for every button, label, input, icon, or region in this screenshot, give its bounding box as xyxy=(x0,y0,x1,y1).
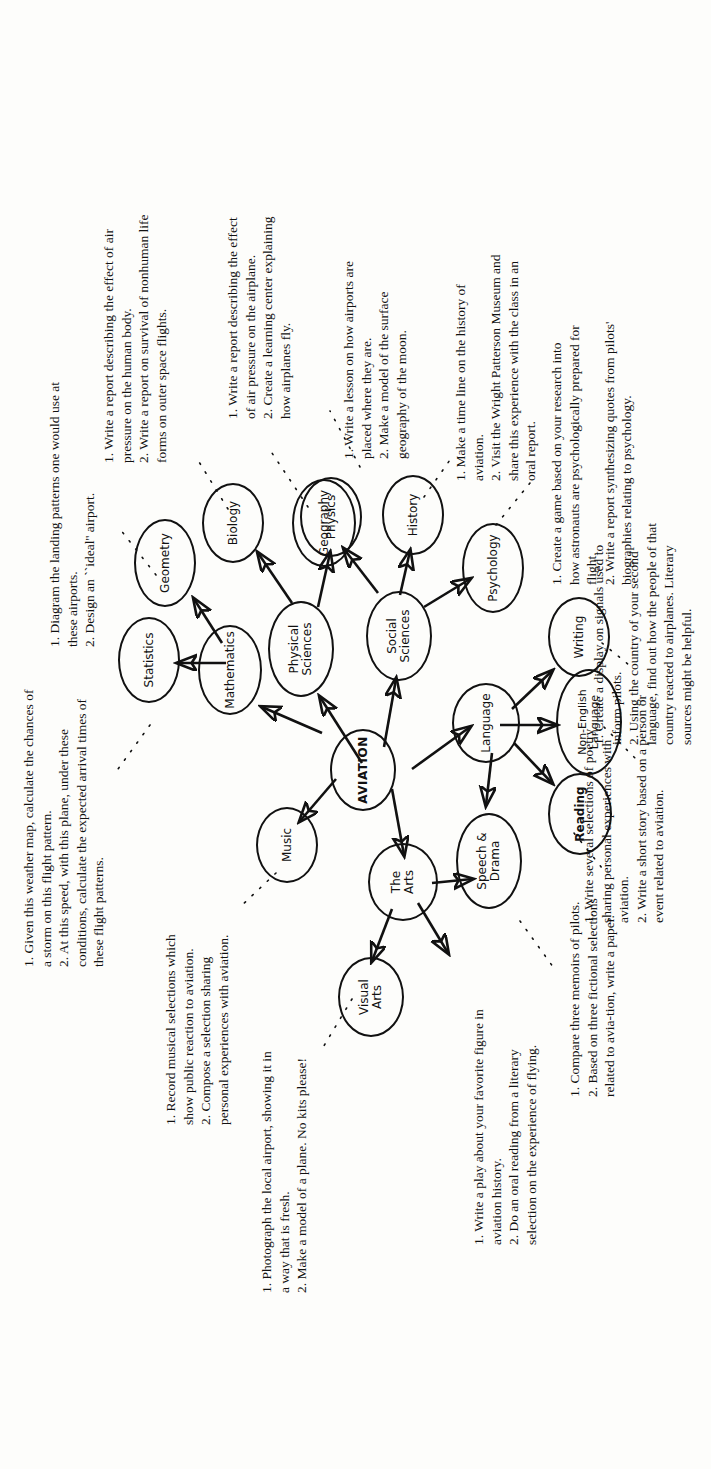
node-label: Physics xyxy=(325,495,338,539)
note-music: 1. Record musical selections which show … xyxy=(162,909,232,1125)
node-mathematics[interactable]: Mathematics xyxy=(198,625,262,715)
note-speech-drama: 1. Write a play about your favorite figu… xyxy=(470,999,540,1245)
node-geometry[interactable]: Geometry xyxy=(134,519,196,607)
node-label: Language xyxy=(480,693,493,752)
note-biology: 1. Write a report describing the effect … xyxy=(100,195,170,463)
note-history: 1. Make a time line on the history of av… xyxy=(452,249,540,481)
note-physics: 1. Write a report describing the effect … xyxy=(224,211,294,419)
note-geography: 1. Diagram the landing patterns one woul… xyxy=(46,379,99,647)
node-label: Psychology xyxy=(487,534,500,601)
page-rotation-wrapper: AVIATION The Arts Language Social Scienc… xyxy=(0,0,711,1469)
node-the-arts[interactable]: The Arts xyxy=(368,843,438,921)
node-label: Writing xyxy=(573,616,586,659)
node-label: Mathematics xyxy=(224,631,237,708)
node-music[interactable]: Music xyxy=(256,807,318,883)
node-label: The Arts xyxy=(390,870,415,894)
node-label: History xyxy=(407,494,420,537)
node-biology[interactable]: Biology xyxy=(202,483,264,563)
node-psychology[interactable]: Psychology xyxy=(462,523,524,613)
node-social-sciences[interactable]: Social Sciences xyxy=(366,591,432,681)
node-aviation[interactable]: AVIATION xyxy=(330,729,396,811)
node-label: Physical Sciences xyxy=(288,623,313,676)
node-label: Speech & Drama xyxy=(476,832,501,889)
node-label: AVIATION xyxy=(357,736,370,803)
node-language[interactable]: Language xyxy=(452,683,520,763)
note-social-studies: 1. Write a lesson on how airports are pl… xyxy=(340,245,410,459)
note-visual-arts: 1. Photograph the local airport, showing… xyxy=(258,1049,311,1293)
node-statistics[interactable]: Statistics xyxy=(118,617,180,703)
note-non-english-language: 1. Create a display on signals used to i… xyxy=(590,507,695,745)
concept-map-canvas: AVIATION The Arts Language Social Scienc… xyxy=(0,0,711,1469)
node-label: Biology xyxy=(227,501,240,545)
node-history[interactable]: History xyxy=(382,475,444,555)
node-label: Statistics xyxy=(143,633,156,688)
node-label: Visual Arts xyxy=(358,979,383,1015)
node-physical-sciences[interactable]: Physical Sciences xyxy=(268,601,334,697)
node-label: Music xyxy=(281,828,294,862)
node-physics[interactable]: Physics xyxy=(300,477,362,557)
note-mathematics: 1. Given this weather map, calculate the… xyxy=(20,683,108,967)
node-label: Geometry xyxy=(159,533,172,593)
node-speech-drama[interactable]: Speech & Drama xyxy=(456,813,522,909)
node-label: Social Sciences xyxy=(386,610,411,663)
node-visual-arts[interactable]: Visual Arts xyxy=(338,957,404,1037)
